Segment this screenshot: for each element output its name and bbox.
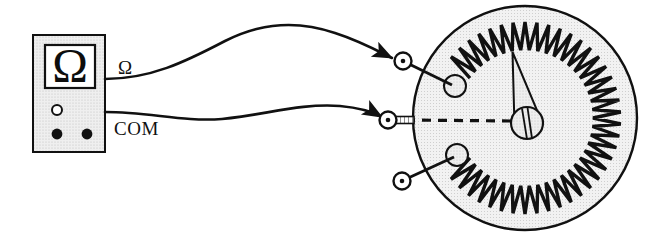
lead-wires-group	[105, 25, 392, 119]
track-contact-ball-lower	[446, 144, 468, 166]
potentiometer-terminal-2[interactable]	[380, 112, 415, 129]
terminal-3-contact-dot	[400, 179, 405, 184]
ohmmeter-jack-right[interactable]	[82, 129, 93, 140]
ohmmeter-body-group: Ω	[33, 35, 105, 152]
terminal-2-contact-dot	[386, 118, 391, 123]
ohmmeter-display-omega: Ω	[52, 39, 88, 92]
ohmmeter-potentiometer-diagram: Ω Ω COM	[0, 0, 671, 233]
potentiometer-group	[380, 6, 638, 230]
track-contact-ball-upper	[444, 75, 466, 97]
com-lead-label: COM	[114, 118, 159, 139]
ohmmeter-jack-left[interactable]	[52, 129, 63, 140]
omega-lead-label: Ω	[118, 57, 132, 78]
terminal-1-contact-dot	[401, 59, 406, 64]
omega-lead-wire	[105, 25, 392, 79]
ohmmeter-selector-hole[interactable]	[52, 105, 62, 115]
diagram-canvas: Ω Ω COM	[0, 0, 671, 233]
